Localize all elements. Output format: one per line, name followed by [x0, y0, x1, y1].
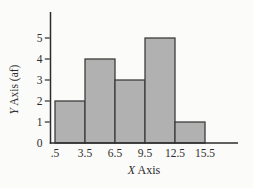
histogram-bar — [175, 122, 205, 143]
y-tick-label: 4 — [37, 53, 43, 65]
y-tick-label: 1 — [37, 116, 43, 128]
y-tick-label: 0 — [37, 137, 43, 149]
y-tick-label: 5 — [37, 32, 43, 44]
y-tick-label: 2 — [37, 95, 43, 107]
x-tick-label: 15.5 — [195, 147, 215, 159]
histogram-bar — [55, 101, 85, 143]
histogram-bar — [85, 59, 115, 143]
y-tick-label: 3 — [37, 74, 43, 86]
x-tick-label: 6.5 — [108, 147, 123, 159]
histogram-bar — [145, 38, 175, 143]
x-tick-label: 12.5 — [165, 147, 185, 159]
plot-area: 012345.53.56.59.512.515.5 — [0, 0, 253, 188]
histogram-bar — [115, 80, 145, 143]
histogram-figure: 012345.53.56.59.512.515.5 Y Axis (af) X … — [0, 0, 253, 188]
x-tick-label: 3.5 — [78, 147, 93, 159]
x-tick-label: .5 — [51, 147, 60, 159]
x-tick-label: 9.5 — [138, 147, 153, 159]
y-axis-title: Y Axis (af) — [7, 15, 22, 165]
x-axis-title: X Axis — [44, 163, 244, 178]
